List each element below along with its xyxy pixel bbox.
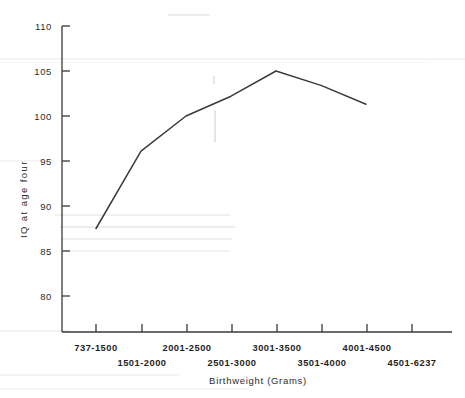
data-series-line xyxy=(96,71,366,229)
y-tick-label-100: 100 xyxy=(34,111,52,122)
x-tick-label-2001-2500: 2001-2500 xyxy=(163,343,212,353)
chart-figure: 110 105 100 95 90 85 80 IQ at age four 7… xyxy=(0,0,465,398)
x-tick-label-3501-4000: 3501-4000 xyxy=(298,358,347,368)
x-tick-marks xyxy=(96,324,412,332)
y-tick-label-90: 90 xyxy=(40,201,52,212)
x-tick-label-737-1500: 737-1500 xyxy=(74,343,117,353)
x-tick-label-3001-3500: 3001-3500 xyxy=(253,343,302,353)
y-tick-label-110: 110 xyxy=(35,21,52,32)
y-axis-title: IQ at age four xyxy=(18,160,29,238)
y-tick-label-80: 80 xyxy=(40,291,52,302)
line-chart-svg: 110 105 100 95 90 85 80 IQ at age four 7… xyxy=(0,0,465,398)
y-tick-marks xyxy=(62,26,70,296)
x-tick-label-1501-2000: 1501-2000 xyxy=(118,358,167,368)
y-tick-label-105: 105 xyxy=(34,66,52,77)
y-tick-label-85: 85 xyxy=(40,246,52,257)
x-tick-label-2501-3000: 2501-3000 xyxy=(208,358,257,368)
x-tick-label-4001-4500: 4001-4500 xyxy=(343,343,392,353)
y-tick-label-95: 95 xyxy=(40,156,52,167)
x-axis-title: Birthweight (Grams) xyxy=(209,375,307,386)
x-tick-label-4501-6237: 4501-6237 xyxy=(388,358,437,368)
